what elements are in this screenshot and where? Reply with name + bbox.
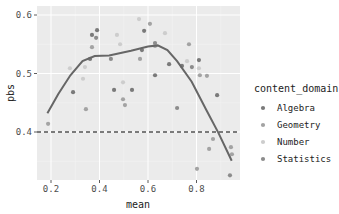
legend-title: content_domain bbox=[254, 83, 338, 95]
x-axis-title: mean bbox=[126, 199, 150, 210]
legend: content_domain AlgebraGeometryNumberStat… bbox=[254, 83, 338, 164]
data-point bbox=[83, 65, 87, 69]
data-point bbox=[121, 80, 125, 84]
data-point bbox=[130, 88, 134, 92]
y-tick-label: 0.6 bbox=[16, 10, 32, 20]
data-point bbox=[46, 122, 50, 126]
data-point bbox=[109, 57, 113, 61]
data-point bbox=[195, 167, 199, 171]
data-point bbox=[211, 137, 215, 141]
legend-label-geometry: Geometry bbox=[277, 120, 321, 130]
data-point bbox=[167, 62, 171, 66]
y-tick-label: 0.5 bbox=[16, 69, 32, 79]
y-axis-ticks: 0.40.50.6 bbox=[16, 10, 37, 137]
data-point bbox=[90, 33, 94, 37]
y-axis-title: pbs bbox=[5, 84, 16, 102]
data-point bbox=[175, 106, 179, 110]
scatter-chart: 0.20.40.60.8 0.40.50.6 mean pbs content_… bbox=[0, 0, 339, 214]
data-point bbox=[198, 73, 202, 77]
data-point bbox=[115, 33, 119, 37]
data-point bbox=[123, 103, 127, 107]
data-point bbox=[148, 22, 152, 26]
legend-label-statistics: Statistics bbox=[277, 154, 331, 164]
data-point bbox=[228, 173, 232, 177]
legend-label-number: Number bbox=[277, 137, 310, 147]
data-point bbox=[197, 58, 201, 62]
data-point bbox=[215, 93, 219, 97]
data-point bbox=[138, 57, 142, 61]
data-point bbox=[197, 66, 201, 70]
data-point bbox=[142, 29, 146, 33]
data-point bbox=[118, 42, 122, 46]
x-axis-ticks: 0.20.40.60.8 bbox=[43, 180, 205, 194]
data-point bbox=[187, 42, 191, 46]
data-point bbox=[207, 147, 211, 151]
data-point bbox=[230, 152, 234, 156]
data-point bbox=[112, 88, 116, 92]
data-point bbox=[68, 66, 72, 70]
x-tick-label: 0.4 bbox=[91, 184, 107, 194]
data-point bbox=[90, 45, 94, 49]
x-tick-label: 0.8 bbox=[188, 184, 204, 194]
legend-key-algebra bbox=[261, 106, 265, 110]
legend-key-statistics bbox=[261, 157, 265, 161]
legend-key-geometry bbox=[261, 123, 265, 127]
data-point bbox=[205, 74, 209, 78]
x-tick-label: 0.2 bbox=[43, 184, 59, 194]
data-point bbox=[71, 90, 75, 94]
data-point bbox=[84, 107, 88, 111]
legend-label-algebra: Algebra bbox=[277, 103, 315, 113]
legend-key-number bbox=[261, 140, 265, 144]
x-tick-label: 0.6 bbox=[140, 184, 156, 194]
data-point bbox=[229, 145, 233, 149]
data-point bbox=[185, 59, 189, 63]
data-point bbox=[94, 36, 98, 40]
data-point bbox=[121, 97, 125, 101]
data-point bbox=[163, 31, 167, 35]
data-point bbox=[190, 65, 194, 69]
plot-panel bbox=[37, 6, 240, 180]
data-point bbox=[95, 28, 99, 32]
data-point bbox=[153, 73, 157, 77]
y-tick-label: 0.4 bbox=[16, 127, 32, 137]
data-point bbox=[81, 77, 85, 81]
data-point bbox=[137, 17, 141, 21]
